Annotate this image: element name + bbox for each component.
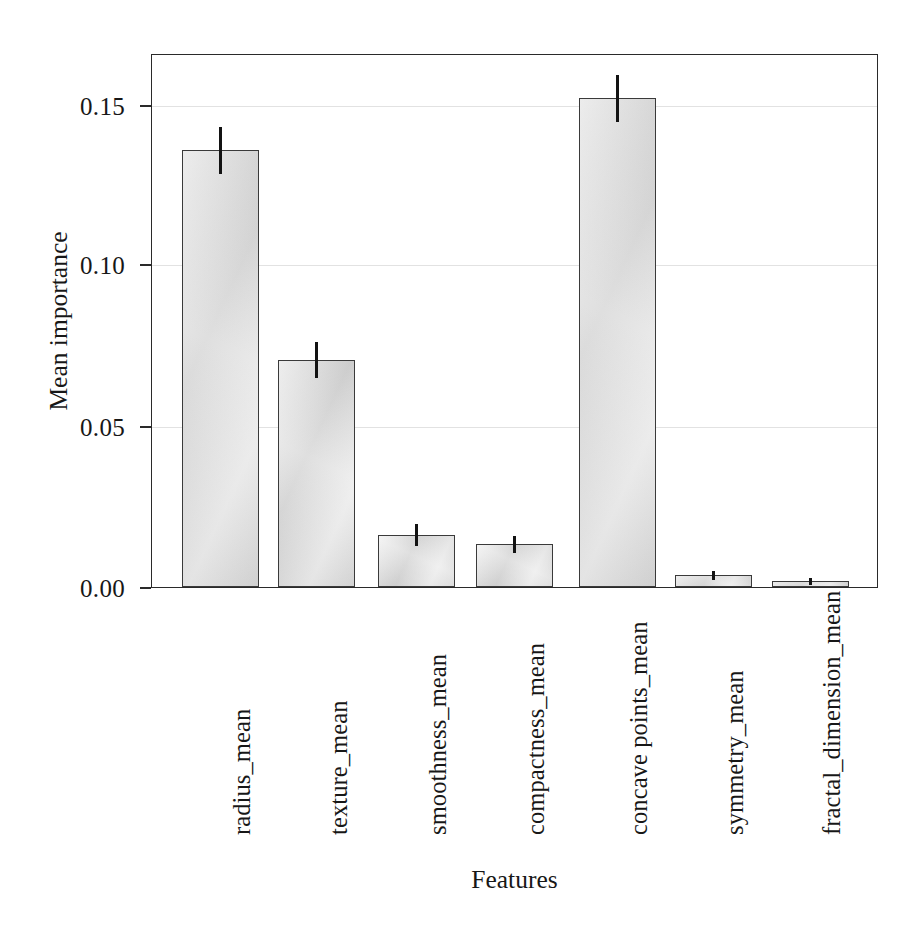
x-tick-label-smoothness-mean: smoothness_mean (425, 654, 450, 835)
bar-texture-mean[interactable] (278, 360, 355, 587)
x-tick-label-compactness-mean: compactness_mean (523, 643, 548, 835)
x-axis-title: Features (151, 866, 878, 894)
y-tick-mark-0.10 (140, 264, 151, 266)
y-tick-mark-0.00 (140, 587, 151, 589)
errorbar-concave-points-mean (616, 75, 619, 122)
errorbar-compactness-mean (513, 536, 516, 553)
bar-concave-points-mean[interactable] (579, 98, 656, 587)
errorbar-texture-mean (315, 342, 318, 378)
x-tick-label-fractal-dimension-mean: fractal_dimension_mean (819, 591, 844, 835)
y-tick-label-0.00: 0.00 (30, 576, 125, 601)
bar-chart-figure: Mean importance 0.15 0.10 0.05 0.00 radi… (0, 0, 916, 928)
y-tick-label-0.05: 0.05 (30, 415, 125, 440)
errorbar-radius-mean (219, 127, 222, 174)
x-tick-label-texture-mean: texture_mean (326, 700, 351, 835)
y-tick-mark-0.05 (140, 426, 151, 428)
y-tick-label-0.15: 0.15 (30, 94, 125, 119)
y-axis-title: Mean importance (46, 54, 72, 588)
gridline-0.05 (152, 427, 877, 428)
errorbar-smoothness-mean (415, 524, 418, 546)
gridline-0.15 (152, 106, 877, 107)
x-tick-label-concave-points-mean: concave points_mean (626, 622, 651, 835)
x-tick-label-radius-mean: radius_mean (229, 709, 254, 835)
errorbar-symmetry-mean (712, 571, 715, 580)
y-tick-mark-0.15 (140, 105, 151, 107)
gridline-0.10 (152, 265, 877, 266)
plot-area (151, 54, 878, 588)
errorbar-fractal-dimension-mean (809, 578, 812, 585)
bar-radius-mean[interactable] (182, 150, 259, 587)
y-tick-label-0.10: 0.10 (30, 253, 125, 278)
x-tick-label-symmetry-mean: symmetry_mean (722, 670, 747, 835)
